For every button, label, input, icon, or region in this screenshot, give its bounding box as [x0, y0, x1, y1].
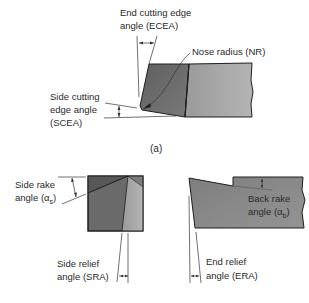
side-relief-label-line2: angle (SRA) — [57, 271, 109, 283]
top-view-tool — [140, 63, 253, 117]
scea-label-line2: edge angle — [50, 104, 97, 116]
back-rake-label-line2: angle (αb) — [248, 206, 290, 222]
side-rake-label-line2: angle (αs) — [15, 192, 56, 208]
tool-tip-face — [140, 64, 189, 117]
ecea-label-line1: End cutting edge — [120, 7, 191, 19]
end-relief-label-line2: angle (ERA) — [206, 270, 258, 282]
figure-caption: (a) — [150, 143, 162, 154]
back-rake-label-line1: Back rake — [248, 193, 290, 205]
scea-label-line1: Side cutting — [50, 91, 100, 103]
side-rake-dimension — [58, 177, 86, 204]
nose-radius-label: Nose radius (NR) — [192, 46, 265, 58]
side-relief-dimension — [117, 233, 128, 283]
tool-shank-face — [185, 63, 253, 117]
side-rake-label-line1: Side rake — [15, 179, 55, 191]
side-relief-label-line1: Side relief — [57, 258, 99, 270]
ecea-label-line2: angle (ECEA) — [120, 20, 178, 32]
side-view-tool — [88, 176, 143, 231]
end-relief-label-line1: End relief — [206, 256, 246, 268]
scea-label-line3: (SCEA) — [50, 117, 82, 129]
